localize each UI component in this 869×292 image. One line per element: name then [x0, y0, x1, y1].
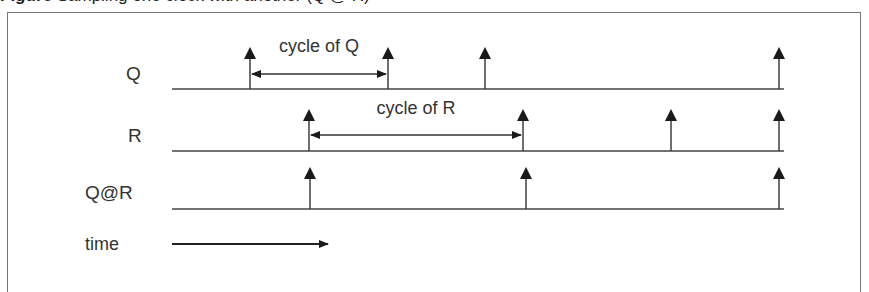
tick-arrows-r	[303, 109, 785, 151]
arrow-up-icon	[303, 109, 315, 121]
arrow-up-icon	[520, 167, 532, 179]
arrow-up-icon	[773, 167, 785, 179]
arrow-up-icon	[773, 109, 785, 121]
tick-arrows-q-at-r	[304, 167, 785, 209]
cycle-label-q: cycle of Q	[279, 36, 359, 56]
arrow-up-icon	[517, 109, 529, 121]
arrow-up-icon	[304, 167, 316, 179]
row-label-q-at-r: Q@R	[85, 182, 133, 203]
signal-row-r: R cycle of R	[128, 98, 785, 151]
arrow-up-icon	[382, 47, 394, 59]
arrow-up-icon	[665, 109, 677, 121]
cycle-label-r: cycle of R	[376, 98, 455, 118]
time-label: time	[85, 234, 119, 254]
row-label-r: R	[128, 125, 142, 146]
signal-row-q: Q cycle of Q	[126, 36, 785, 89]
time-axis: time	[85, 234, 328, 254]
arrow-up-icon	[244, 47, 256, 59]
signal-row-q-at-r: Q@R	[85, 167, 785, 209]
arrow-up-icon	[479, 47, 491, 59]
row-label-q: Q	[126, 63, 141, 84]
arrow-up-icon	[773, 47, 785, 59]
